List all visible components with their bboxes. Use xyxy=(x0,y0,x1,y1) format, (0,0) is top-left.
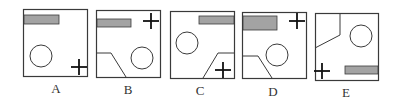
option-panel-e[interactable] xyxy=(314,13,379,81)
gray-bar xyxy=(243,16,277,30)
option-label-e: E xyxy=(336,85,356,101)
option-panel-d[interactable] xyxy=(242,13,307,79)
gray-bar xyxy=(24,15,59,24)
gray-bar xyxy=(97,19,131,27)
gray-bar xyxy=(199,16,234,24)
option-label-c: C xyxy=(190,83,210,99)
option-label-d: D xyxy=(263,84,283,100)
option-label-a: A xyxy=(46,81,66,97)
gray-bar xyxy=(345,66,378,74)
option-panel-c[interactable] xyxy=(171,12,235,79)
option-panel-a[interactable] xyxy=(24,10,88,77)
option-label-b: B xyxy=(118,82,138,98)
option-panel-b[interactable] xyxy=(96,11,161,78)
figure-options-diagram: ABCDE xyxy=(0,0,398,106)
